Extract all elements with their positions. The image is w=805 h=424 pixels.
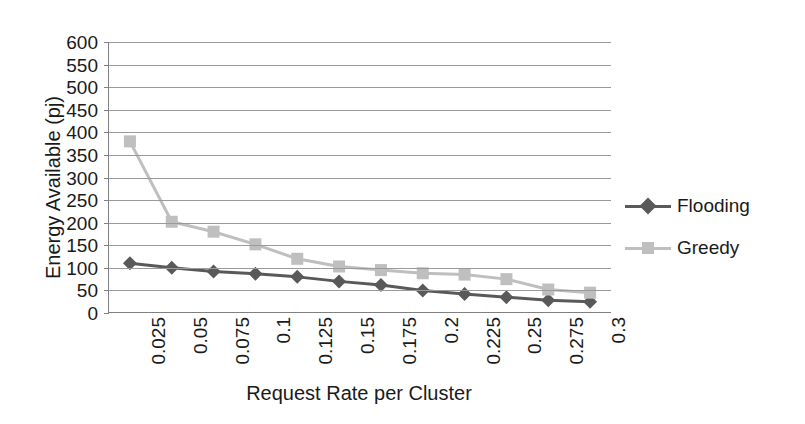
y-tick-label: 0 [48, 304, 98, 323]
gridline [109, 42, 611, 43]
y-tick-mark [104, 268, 109, 269]
y-tick-mark [104, 200, 109, 201]
chart-legend: Flooding Greedy [625, 185, 800, 269]
gridline [109, 290, 611, 291]
x-tick-label: 0.275 [567, 317, 586, 387]
data-point-diamond [332, 274, 346, 288]
x-tick-label: 0.1 [274, 317, 293, 387]
y-tick-label: 350 [48, 145, 98, 164]
x-tick-label: 0.25 [525, 317, 544, 387]
y-tick-label: 150 [48, 236, 98, 255]
y-tick-label: 50 [48, 281, 98, 300]
data-point-diamond [290, 270, 304, 284]
y-tick-mark [104, 65, 109, 66]
gridline [109, 268, 611, 269]
legend-label-greedy: Greedy [677, 237, 739, 259]
gridline [109, 132, 611, 133]
data-point-square [584, 287, 596, 299]
square-marker-icon [642, 242, 654, 254]
gridline [109, 178, 611, 179]
x-axis-tick-labels: 0.0250.050.0750.10.1250.150.1750.20.2250… [108, 313, 610, 379]
y-tick-label: 450 [48, 100, 98, 119]
data-point-square [500, 273, 512, 285]
y-tick-label: 300 [48, 168, 98, 187]
y-tick-label: 550 [48, 55, 98, 74]
gridline [109, 65, 611, 66]
x-tick-label: 0.125 [316, 317, 335, 387]
data-point-diamond [499, 290, 513, 304]
x-tick-label: 0.2 [442, 317, 461, 387]
x-tick-label: 0.225 [484, 317, 503, 387]
x-tick-label: 0.15 [358, 317, 377, 387]
data-point-square [124, 135, 136, 147]
y-tick-mark [104, 110, 109, 111]
y-tick-mark [104, 245, 109, 246]
chart-figure: Energy Available (pj) 600550500450400350… [0, 0, 805, 424]
y-tick-mark [104, 178, 109, 179]
y-tick-mark [104, 132, 109, 133]
plot-area [108, 42, 611, 313]
x-axis-title: Request Rate per Cluster [108, 382, 610, 405]
data-point-diamond [207, 264, 221, 278]
data-point-square [459, 269, 471, 281]
y-tick-label: 600 [48, 33, 98, 52]
data-point-square [291, 253, 303, 265]
gridline [109, 223, 611, 224]
gridline [109, 245, 611, 246]
data-point-square [208, 226, 220, 238]
y-axis-tick-labels: 600550500450400350300250200150100500 [48, 32, 98, 322]
legend-label-flooding: Flooding [677, 195, 750, 217]
y-tick-label: 100 [48, 258, 98, 277]
legend-swatch-greedy [625, 239, 671, 257]
y-tick-mark [104, 155, 109, 156]
x-tick-label: 0.025 [149, 317, 168, 387]
y-tick-label: 400 [48, 123, 98, 142]
x-tick-label: 0.175 [400, 317, 419, 387]
y-tick-label: 250 [48, 191, 98, 210]
y-tick-mark [104, 290, 109, 291]
data-point-diamond [458, 287, 472, 301]
legend-item-flooding: Flooding [625, 185, 800, 227]
x-tick-label: 0.05 [191, 317, 210, 387]
legend-item-greedy: Greedy [625, 227, 800, 269]
x-tick-label: 0.3 [609, 317, 628, 387]
data-point-square [375, 264, 387, 276]
y-tick-mark [104, 87, 109, 88]
x-tick-label: 0.075 [233, 317, 252, 387]
gridline [109, 110, 611, 111]
y-tick-label: 200 [48, 213, 98, 232]
y-tick-mark [104, 223, 109, 224]
gridline [109, 155, 611, 156]
data-point-square [333, 260, 345, 272]
legend-swatch-flooding [625, 197, 671, 215]
diamond-marker-icon [640, 198, 657, 215]
gridline [109, 87, 611, 88]
data-point-square [417, 267, 429, 279]
y-tick-label: 500 [48, 78, 98, 97]
y-tick-mark [104, 42, 109, 43]
gridline [109, 200, 611, 201]
